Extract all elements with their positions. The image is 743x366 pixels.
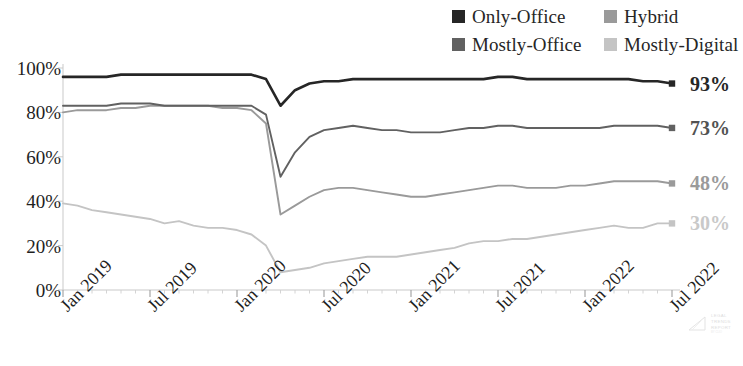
- watermark-line-3: REPORT: [711, 325, 731, 330]
- watermark-subtitle: BY CLIO: [711, 331, 731, 334]
- end-value-label: 93%: [690, 74, 730, 94]
- series-end-labels: 93%73%48%30%: [0, 0, 743, 366]
- watermark-line-1: LEGAL: [711, 313, 731, 318]
- end-value-label: 30%: [690, 213, 730, 233]
- legal-trends-report-watermark: LEGAL TRENDS REPORT BY CLIO: [688, 306, 743, 340]
- watermark-line-2: TRENDS: [711, 319, 731, 324]
- legal-trends-line-chart: Only-Office Hybrid Mostly-Office Mostly-…: [0, 0, 743, 366]
- watermark-triangle-icon: [688, 315, 708, 332]
- watermark-text: LEGAL TRENDS REPORT BY CLIO: [711, 313, 731, 334]
- end-value-label: 73%: [690, 118, 730, 138]
- end-value-label: 48%: [690, 173, 730, 193]
